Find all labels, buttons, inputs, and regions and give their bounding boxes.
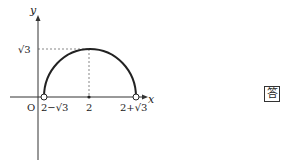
semicircle-graph: y x O √3 2−√3 2 2+√3 [0,0,296,168]
x-tick-2-plus-sqrt3: 2+√3 [120,102,147,113]
open-endpoint-right [133,94,139,100]
answer-badge: 答 [264,86,280,102]
y-axis-arrow [36,15,41,21]
semicircle-curve [44,49,136,97]
y-axis-label: y [29,4,37,17]
x-tick-2-minus-sqrt3: 2−√3 [41,102,68,113]
x-axis-label: x [148,93,155,106]
center-point [87,95,90,98]
origin-label: O [27,102,35,113]
y-tick-sqrt3: √3 [18,44,31,55]
open-endpoint-left [41,94,47,100]
x-tick-2: 2 [86,102,92,113]
